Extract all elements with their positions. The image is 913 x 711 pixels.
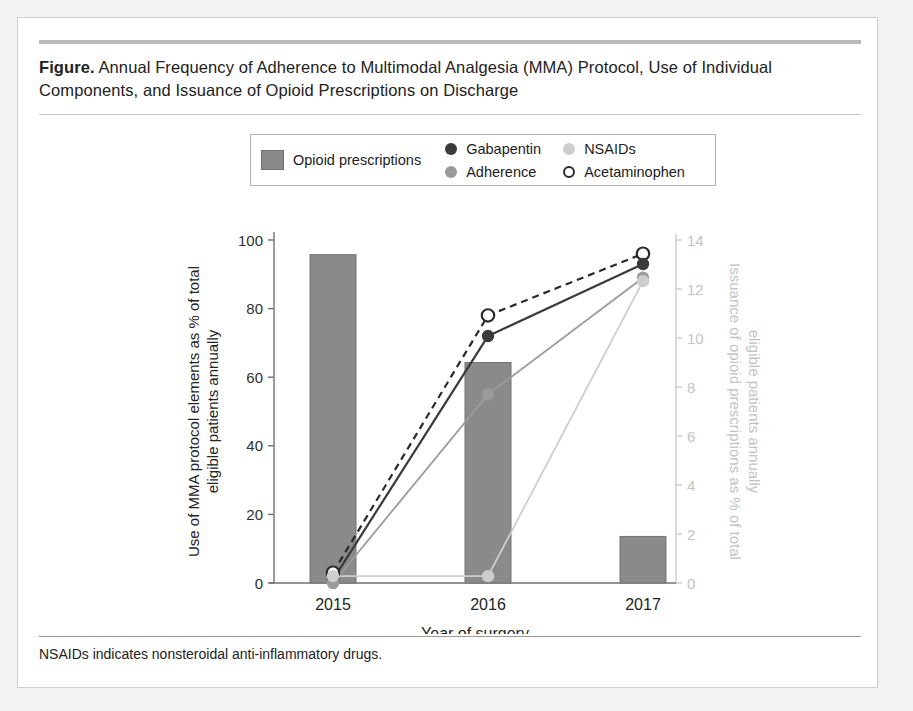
x-tick-label-2017: 2017 bbox=[625, 596, 661, 613]
marker-adherence-2016[interactable] bbox=[482, 388, 494, 400]
marker-gabapentin-2016[interactable] bbox=[482, 330, 494, 342]
figure-title-text: Annual Frequency of Adherence to Multimo… bbox=[39, 58, 772, 99]
bar-2015[interactable] bbox=[310, 255, 356, 583]
x-tick-label-2016: 2016 bbox=[470, 596, 506, 613]
y-tick-label-left: 0 bbox=[255, 575, 263, 592]
y-tick-label-left: 40 bbox=[246, 437, 263, 454]
y-axis-title-left: Use of MMA protocol elements as % of tot… bbox=[185, 266, 202, 557]
marker-nsaids-2017[interactable] bbox=[637, 275, 649, 287]
y-axis-title-right: eligible patients annually bbox=[746, 330, 763, 494]
marker-acetaminophen-2016[interactable] bbox=[482, 309, 494, 321]
y-tick-label-left: 100 bbox=[238, 232, 263, 249]
y-tick-label-right: 6 bbox=[687, 428, 695, 445]
y-axis-title-left: eligible patients annually bbox=[204, 329, 221, 493]
y-tick-label-left: 60 bbox=[246, 369, 263, 386]
marker-gabapentin-2017[interactable] bbox=[637, 258, 649, 270]
chart-svg: 02040608010002468101214201520162017Year … bbox=[18, 118, 877, 634]
marker-nsaids-2015[interactable] bbox=[327, 570, 339, 582]
y-tick-label-right: 2 bbox=[687, 526, 695, 543]
plot-area: Opioid prescriptions Gabapentin Adherenc… bbox=[18, 118, 877, 634]
figure-title: Figure. Annual Frequency of Adherence to… bbox=[39, 56, 849, 103]
figure-label: Figure. bbox=[39, 58, 95, 76]
figure-card: Figure. Annual Frequency of Adherence to… bbox=[17, 17, 878, 688]
y-tick-label-right: 4 bbox=[687, 477, 695, 494]
y-tick-label-left: 80 bbox=[246, 300, 263, 317]
y-tick-label-left: 20 bbox=[246, 506, 263, 523]
y-axis-title-right: Issuance of opioid prescriptions as % of… bbox=[727, 263, 744, 560]
bar-2017[interactable] bbox=[620, 536, 666, 583]
top-rule bbox=[39, 40, 861, 44]
y-tick-label-right: 0 bbox=[687, 575, 695, 592]
marker-nsaids-2016[interactable] bbox=[482, 570, 494, 582]
y-tick-label-right: 10 bbox=[687, 330, 704, 347]
bottom-rule bbox=[39, 636, 861, 637]
title-rule bbox=[39, 114, 861, 115]
y-tick-label-right: 12 bbox=[687, 281, 704, 298]
x-tick-label-2015: 2015 bbox=[315, 596, 351, 613]
x-axis-title: Year of surgery bbox=[421, 625, 529, 634]
figure-footnote: NSAIDs indicates nonsteroidal anti-infla… bbox=[39, 646, 839, 662]
y-tick-label-right: 8 bbox=[687, 379, 695, 396]
y-tick-label-right: 14 bbox=[687, 232, 704, 249]
